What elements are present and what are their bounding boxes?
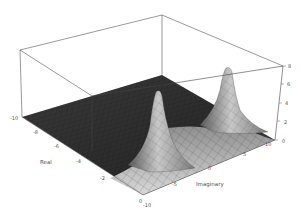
svg-text:10: 10 <box>265 141 271 147</box>
svg-text:-6: -6 <box>54 143 59 149</box>
svg-text:0: 0 <box>139 198 142 204</box>
svg-text:0: 0 <box>282 138 285 144</box>
svg-text:6: 6 <box>287 81 290 87</box>
svg-text:-10: -10 <box>10 115 18 121</box>
svg-text:-4: -4 <box>76 158 81 164</box>
svg-text:5: 5 <box>243 151 246 157</box>
real-axis-label: Real <box>40 159 52 165</box>
svg-text:8: 8 <box>288 63 291 69</box>
svg-text:4: 4 <box>285 100 288 106</box>
svg-text:0: 0 <box>208 165 211 171</box>
svg-text:2: 2 <box>284 119 287 125</box>
svg-text:-5: -5 <box>172 181 177 187</box>
svg-text:-2: -2 <box>100 175 105 181</box>
imaginary-axis-label: Imaginary <box>196 181 224 188</box>
svg-text:-10: -10 <box>143 202 151 208</box>
svg-text:-8: -8 <box>33 129 38 135</box>
z-axis-ticks: 0 2 4 6 8 <box>282 63 291 144</box>
surface-plot: -10 -8 -6 -4 -2 0 Real -10 -5 0 5 10 Ima… <box>0 0 300 214</box>
